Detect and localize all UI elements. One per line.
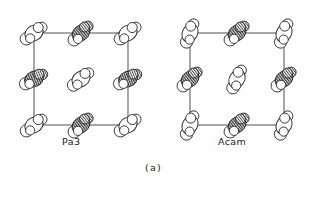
panel-label-acam: Acam xyxy=(218,136,246,147)
panel-label-pa3: Pa3 xyxy=(62,136,80,147)
unit-cell-panel-acam xyxy=(173,16,300,142)
unit-cell-panel-pa3 xyxy=(17,18,145,141)
figure-panel-caption: (a) xyxy=(145,162,162,173)
